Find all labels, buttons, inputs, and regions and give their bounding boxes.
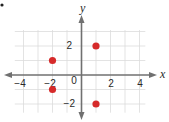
- data-point: [92, 42, 99, 49]
- data-point: [49, 57, 56, 64]
- data-point: [92, 100, 99, 107]
- y-tick-neg2: −2: [64, 98, 76, 109]
- bullet-marker: [0, 3, 3, 6]
- y-axis-down-arrow-icon: [79, 112, 85, 120]
- x-tick-4: 4: [137, 78, 143, 89]
- x-tick-2: 2: [108, 78, 114, 89]
- y-tick-2: 2: [66, 40, 72, 51]
- grid-lines: [15, 30, 146, 113]
- x-axis-right-arrow-icon: [149, 72, 157, 78]
- y-axis-label: y: [79, 1, 86, 15]
- coordinate-plane-chart: −4 −2 2 4 0 2 −2 x y: [0, 0, 169, 122]
- y-axis-up-arrow-icon: [79, 15, 85, 23]
- data-point: [49, 86, 56, 93]
- x-axis-left-arrow-icon: [4, 72, 12, 78]
- x-axis-label: x: [159, 67, 166, 81]
- origin-label: 0: [71, 75, 77, 86]
- x-tick-neg4: −4: [14, 78, 26, 89]
